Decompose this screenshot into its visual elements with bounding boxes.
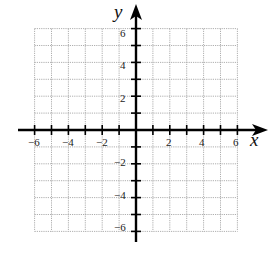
axes — [18, 4, 268, 242]
x-tick-label: −6 — [28, 136, 40, 148]
x-tick-label: −2 — [96, 136, 108, 148]
x-tick-label: 2 — [166, 136, 172, 148]
coordinate-plane: −6 −4 −2 2 4 6 6 4 2 −2 −4 −6 x y — [0, 0, 279, 253]
x-tick-label: 6 — [233, 136, 239, 148]
y-tick-label: −4 — [114, 189, 126, 201]
x-tick-label: 4 — [199, 136, 205, 148]
y-axis-label: y — [112, 1, 123, 22]
y-tick-label: 4 — [120, 59, 126, 71]
tick-labels: −6 −4 −2 2 4 6 6 4 2 −2 −4 −6 x y — [28, 1, 259, 233]
x-tick-label: −4 — [62, 136, 74, 148]
y-tick-label: −6 — [114, 221, 126, 233]
y-tick-label: −2 — [114, 156, 126, 168]
y-tick-label: 2 — [120, 92, 126, 104]
y-tick-label: 6 — [120, 27, 126, 39]
x-axis-label: x — [249, 129, 259, 150]
